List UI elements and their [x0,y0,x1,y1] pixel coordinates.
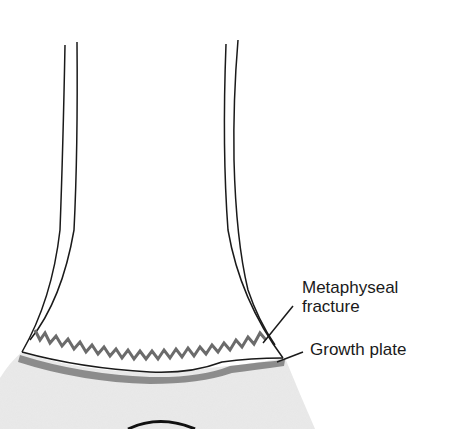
bone-shaft-outline [22,40,283,358]
leader-line-fracture [263,306,293,343]
fracture-zigzag [35,330,266,359]
leader-line-growth-plate [277,352,303,362]
label-growth-plate: Growth plate [310,340,406,359]
label-line: fracture [302,297,398,316]
label-metaphyseal-fracture: Metaphyseal fracture [302,278,398,316]
label-line: Growth plate [310,340,406,359]
label-line: Metaphyseal [302,278,398,297]
bone-diagram [0,0,454,429]
